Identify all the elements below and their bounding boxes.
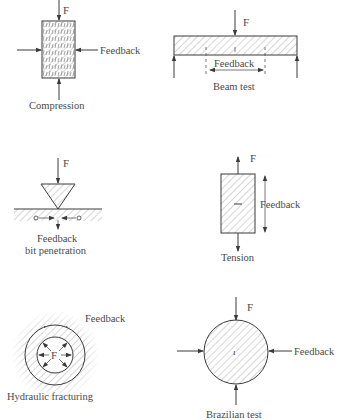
indenter-bit (41, 184, 75, 209)
disc-specimen (204, 320, 268, 384)
diagram-canvas: F Feedback Compression F Feedback Beam t… (0, 0, 346, 420)
feedback-label: Feedback (294, 346, 335, 357)
feedback-label: Feedback (85, 313, 126, 324)
force-label: F (51, 349, 57, 361)
caption-beam: Beam test (213, 81, 255, 92)
panel-hydraulic: F Feedback Hydraulic fracturing (7, 310, 126, 402)
beam-specimen (174, 36, 297, 55)
feedback-label: Feedback (37, 233, 78, 244)
panel-brazilian: F ι Feedback Brazilian test (177, 297, 335, 420)
specimen-texture (42, 21, 75, 78)
gauge-point-right (77, 216, 81, 220)
caption-tension: Tension (221, 252, 255, 263)
feedback-label: Feedback (260, 199, 301, 210)
force-label: F (250, 152, 256, 164)
caption-compression: Compression (29, 100, 85, 111)
force-label: F (247, 301, 253, 313)
panel-beam: F Feedback Beam test (174, 10, 297, 92)
feedback-label: Feedback (100, 45, 141, 56)
caption-brazilian: Brazilian test (206, 409, 262, 420)
panel-indentation: F Feedback bit penetration (14, 157, 102, 256)
gauge-point-left (34, 216, 38, 220)
feedback-label: Feedback (214, 58, 255, 69)
rock-surface-hatch (14, 209, 102, 221)
force-label: F (243, 16, 249, 28)
force-label: F (63, 4, 69, 16)
force-label: F (63, 157, 69, 169)
panel-compression: F Feedback Compression (17, 0, 141, 111)
caption-hydraulic: Hydraulic fracturing (7, 391, 94, 402)
caption-indentation: bit penetration (25, 245, 87, 256)
panel-tension: F Feedback Tension (221, 152, 301, 263)
